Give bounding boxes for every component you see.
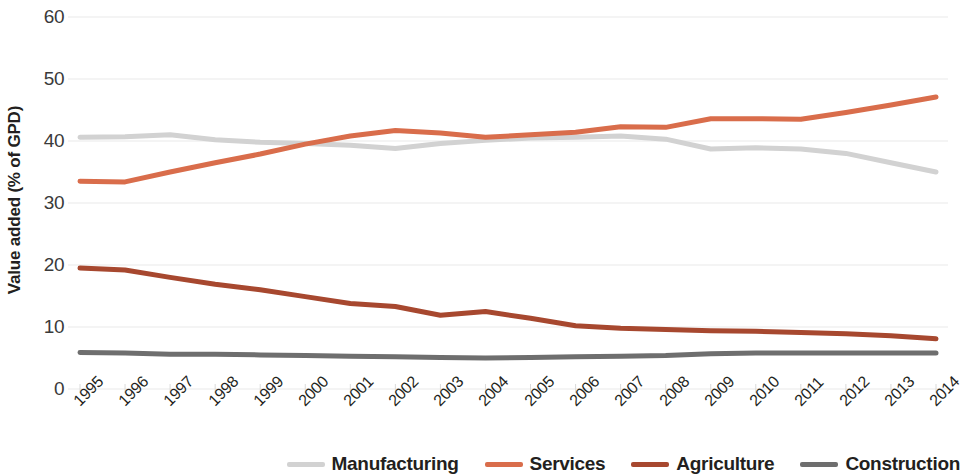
chart-legend: ManufacturingServicesAgricultureConstruc… [300,452,960,476]
line-chart: Value added (% of GPD) 6050403020100 199… [0,0,965,476]
legend-label: Services [530,453,606,475]
series-line-agriculture [80,268,936,339]
legend-swatch-services [485,462,523,467]
legend-swatch-construction [800,462,838,467]
series-line-construction [80,352,936,358]
y-tick-label: 50 [26,68,64,90]
legend-label: Construction [845,453,960,475]
y-tick-label: 40 [26,130,64,152]
legend-label: Agriculture [676,453,774,475]
legend-swatch-agriculture [631,462,669,467]
y-tick-label: 60 [26,6,64,28]
y-tick-label: 30 [26,192,64,214]
legend-item-agriculture[interactable]: Agriculture [631,453,774,475]
x-axis-tick-labels: 1995199619971998199920002001200220032004… [68,389,948,449]
plot-svg [68,0,948,400]
y-tick-label: 0 [26,378,64,400]
y-axis-tick-labels: 6050403020100 [22,0,64,400]
series-lines [80,97,936,358]
gridlines [68,17,948,393]
y-tick-label: 20 [26,254,64,276]
plot-area [68,0,948,400]
legend-item-manufacturing[interactable]: Manufacturing [287,453,459,475]
legend-swatch-manufacturing [287,462,325,467]
legend-item-services[interactable]: Services [485,453,606,475]
y-tick-label: 10 [26,316,64,338]
legend-item-construction[interactable]: Construction [800,453,960,475]
legend-label: Manufacturing [332,453,459,475]
